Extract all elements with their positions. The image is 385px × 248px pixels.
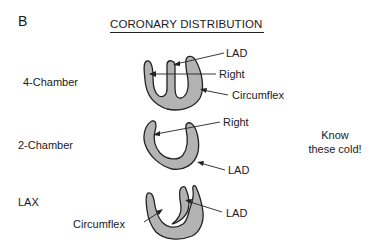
label-2ch-right: Right [223,116,249,128]
label-2ch-lad: LAD [228,164,249,176]
label-4ch-circumflex: Circumflex [232,89,284,101]
lax-heart-icon [146,186,203,240]
two-chamber-heart-icon [144,121,199,170]
label-4ch-lad: LAD [226,47,247,59]
note-line-2: these cold! [300,142,370,156]
label-lax-lad: LAD [226,207,247,219]
coronary-distribution-drawings [0,0,385,248]
four-chamber-heart-icon [144,56,202,110]
label-lax-circumflex: Circumflex [73,218,125,230]
label-4ch-right: Right [219,68,245,80]
note: Know these cold! [300,128,370,156]
note-line-1: Know [300,128,370,142]
